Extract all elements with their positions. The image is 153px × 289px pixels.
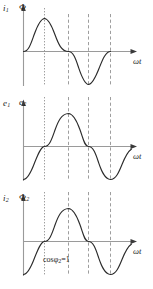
x-axis-arrow-flux	[131, 49, 138, 54]
y-axis-label-flux-left-sub: 1	[6, 7, 9, 13]
power-factor-annotation: cosφ2=1	[43, 256, 70, 264]
panel-flux	[21, 5, 137, 87]
power-factor-annotation-text: cosφ	[43, 255, 58, 264]
panel-emf	[21, 100, 137, 182]
x-axis-arrow-emf	[131, 144, 138, 149]
y-axis-label-flux-right: Φ	[19, 3, 26, 12]
x-axis-label-current: ωt	[133, 247, 141, 256]
y-axis-label-emf-left-sub: 1	[7, 102, 10, 108]
y-axis-label-emf-left: e1	[3, 99, 10, 108]
y-axis-label-flux-left: i1	[3, 4, 9, 13]
y-axis-label-current-left-sub: 2	[6, 197, 9, 203]
y-axis-label-flux-right-text: Φ	[19, 2, 26, 12]
y-axis-label-current-right-sub: 2	[26, 196, 29, 202]
y-axis-label-emf-right-sub: 2	[23, 101, 26, 107]
x-axis-label-flux: ωt	[133, 57, 141, 66]
y-axis-label-emf-right: e2	[19, 98, 26, 107]
x-axis-arrow-current	[131, 239, 138, 244]
guide-line-group	[45, 8, 111, 276]
waveform-figure: i1 Φ ωt e1 e2 ωt i2 Φ2 ωt cosφ2=1	[0, 0, 153, 289]
y-axis-label-current-right-text: Φ	[19, 192, 26, 202]
figure-canvas	[0, 0, 153, 289]
power-factor-annotation-tail: =1	[61, 255, 70, 264]
panel-current	[21, 195, 137, 277]
x-axis-label-emf: ωt	[133, 152, 141, 161]
y-axis-label-current-right: Φ2	[19, 193, 29, 202]
y-axis-label-current-left: i2	[3, 194, 9, 203]
